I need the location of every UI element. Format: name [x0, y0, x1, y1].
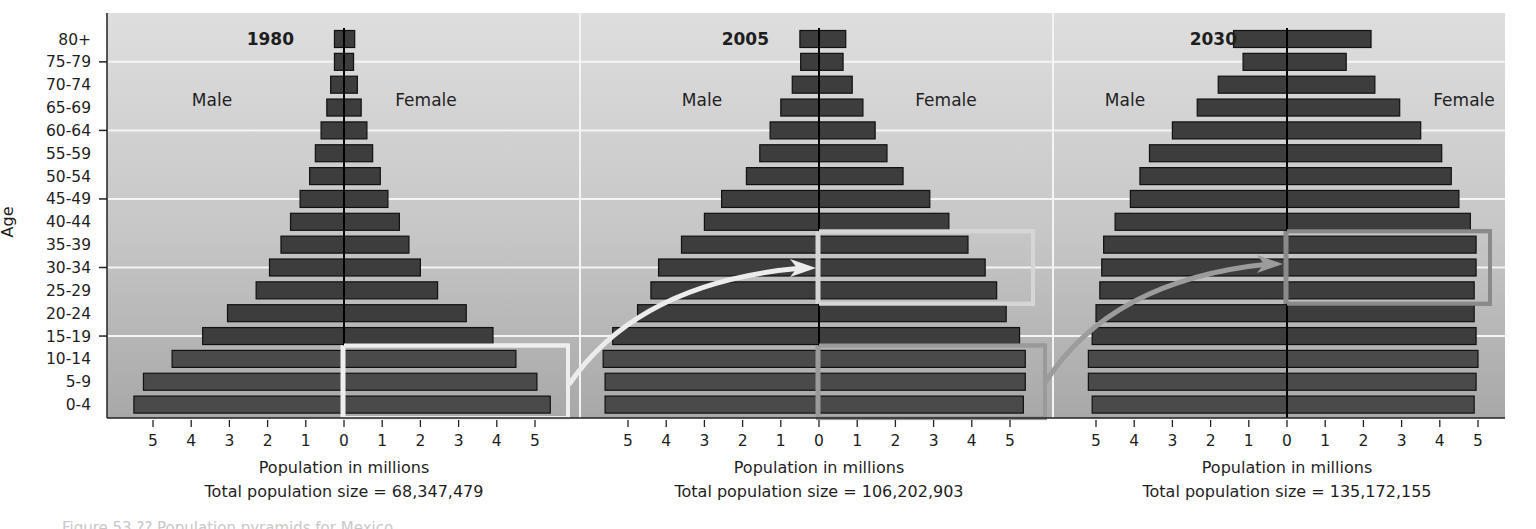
bar-female-1980-70-74: [344, 76, 357, 93]
bar-male-2005-10-14: [603, 350, 819, 367]
total-population-2005: Total population size = 106,202,903: [673, 482, 963, 501]
x-tick-label: 2: [1358, 432, 1368, 450]
x-tick-label: 2: [263, 432, 273, 450]
x-tick-label: 4: [661, 432, 671, 450]
x-tick-label: 3: [929, 432, 939, 450]
bar-male-2030-40-44: [1115, 213, 1287, 230]
x-tick-label: 1: [776, 432, 786, 450]
bar-male-1980-5-9: [143, 373, 344, 390]
bar-female-2030-55-59: [1287, 145, 1442, 162]
bar-male-2005-80+: [800, 31, 819, 48]
x-tick-label: 2: [890, 432, 900, 450]
bar-female-1980-5-9: [344, 373, 537, 390]
x-tick-label: 1: [301, 432, 311, 450]
age-label: 20-24: [46, 305, 91, 323]
bar-male-2005-5-9: [605, 373, 819, 390]
bar-male-1980-35-39: [281, 236, 344, 253]
x-tick-label: 0: [814, 432, 824, 450]
bar-male-2030-45-49: [1130, 190, 1287, 207]
age-label: 15-19: [46, 328, 91, 346]
age-tick-labels: 80+75-7970-7465-6960-6455-5950-5445-4940…: [46, 31, 91, 415]
x-tick-label: 2: [738, 432, 748, 450]
female-label-1980: Female: [395, 90, 456, 110]
bar-female-1980-30-34: [344, 259, 420, 276]
age-label: 45-49: [46, 190, 91, 208]
x-tick-label: 1: [377, 432, 387, 450]
x-tick-label: 0: [1282, 432, 1292, 450]
bar-female-2030-65-69: [1287, 99, 1400, 116]
population-pyramid-chart: 80+75-7970-7465-6960-6455-5950-5445-4940…: [0, 0, 1536, 529]
x-tick-label: 4: [186, 432, 196, 450]
bar-male-2005-50-54: [746, 168, 819, 185]
bar-female-1980-40-44: [344, 213, 399, 230]
bar-female-1980-50-54: [344, 168, 380, 185]
bar-male-1980-75-79: [334, 53, 344, 70]
bar-male-2030-80+: [1234, 31, 1287, 48]
bar-male-1980-20-24: [227, 305, 344, 322]
bar-female-2030-10-14: [1287, 350, 1478, 367]
bar-male-2005-70-74: [792, 76, 819, 93]
bar-female-1980-35-39: [344, 236, 409, 253]
x-tick-label: 5: [1091, 432, 1101, 450]
bar-female-2030-70-74: [1287, 76, 1375, 93]
bar-female-2005-5-9: [819, 373, 1025, 390]
bar-female-2005-65-69: [819, 99, 863, 116]
bar-male-1980-65-69: [327, 99, 344, 116]
age-label: 65-69: [46, 99, 91, 117]
age-label: 70-74: [46, 76, 91, 94]
x-tick-label: 5: [623, 432, 633, 450]
bar-female-1980-10-14: [344, 350, 516, 367]
x-axis-title-2030: Population in millions: [1202, 458, 1372, 477]
x-tick-label: 1: [852, 432, 862, 450]
bar-female-2005-45-49: [819, 190, 930, 207]
bar-female-1980-0-4: [344, 396, 550, 413]
x-tick-label: 3: [224, 432, 234, 450]
age-label: 80+: [58, 31, 91, 49]
bar-female-2005-50-54: [819, 168, 903, 185]
age-label: 40-44: [46, 213, 91, 231]
x-tick-label: 0: [339, 432, 349, 450]
age-label: 0-4: [66, 396, 91, 414]
bar-male-1980-40-44: [291, 213, 344, 230]
y-axis-title: Age: [0, 207, 17, 238]
bar-female-1980-15-19: [344, 328, 493, 345]
age-label: 30-34: [46, 259, 91, 277]
age-label: 50-54: [46, 168, 91, 186]
x-tick-label: 5: [148, 432, 158, 450]
x-tick-label: 4: [967, 432, 977, 450]
bar-male-2005-65-69: [781, 99, 819, 116]
bar-male-2030-35-39: [1104, 236, 1287, 253]
bar-female-2030-15-19: [1287, 328, 1476, 345]
bar-female-2005-20-24: [819, 305, 1006, 322]
bar-male-2005-45-49: [722, 190, 819, 207]
bar-male-2005-15-19: [613, 328, 819, 345]
bar-male-1980-50-54: [310, 168, 344, 185]
bar-female-2030-40-44: [1287, 213, 1470, 230]
bar-male-1980-70-74: [331, 76, 344, 93]
bars: [134, 31, 1478, 414]
age-label: 25-29: [46, 282, 91, 300]
bar-female-2030-25-29: [1287, 282, 1474, 299]
x-tick-label: 5: [1005, 432, 1015, 450]
x-tick-label: 2: [415, 432, 425, 450]
bar-male-1980-55-59: [315, 145, 344, 162]
age-label: 55-59: [46, 145, 91, 163]
x-tick-label: 3: [1167, 432, 1177, 450]
bar-female-2005-25-29: [819, 282, 997, 299]
bar-female-2030-80+: [1287, 31, 1371, 48]
bar-male-2030-75-79: [1243, 53, 1287, 70]
x-tick-label: 1: [1320, 432, 1330, 450]
bar-female-2005-70-74: [819, 76, 852, 93]
bar-female-2030-45-49: [1287, 190, 1459, 207]
bar-male-2005-60-64: [770, 122, 819, 139]
bar-female-2030-50-54: [1287, 168, 1451, 185]
bar-female-2005-35-39: [819, 236, 968, 253]
age-label: 60-64: [46, 122, 91, 140]
bar-female-1980-65-69: [344, 99, 361, 116]
bar-male-1980-80+: [334, 31, 344, 48]
x-tick-label: 3: [454, 432, 464, 450]
bar-female-1980-75-79: [344, 53, 354, 70]
age-label: 5-9: [66, 373, 91, 391]
bar-female-1980-80+: [344, 31, 355, 48]
bar-female-2005-10-14: [819, 350, 1025, 367]
